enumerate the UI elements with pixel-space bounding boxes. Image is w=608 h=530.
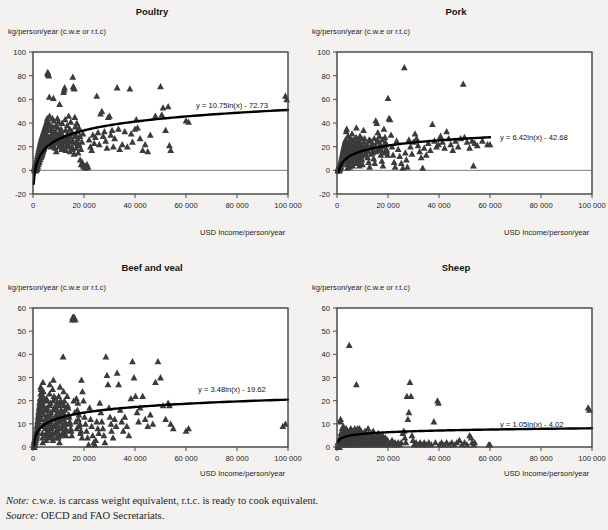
figure-root: Poultry kg/person/year (c.w.e or r.t.c) … [0, 0, 608, 530]
plot-area-beef-and-veal: 0102030405060020 00040 00060 00080 00010… [0, 292, 304, 474]
x-tick-label: 40 000 [427, 201, 450, 210]
x-tick-label: 80 000 [529, 201, 552, 210]
y-tick-label: 50 [322, 327, 330, 336]
chart-panel-beef-and-veal: Beef and veal kg/person/year (c.w.e or r… [0, 262, 304, 502]
x-tick-label: 60 000 [174, 454, 197, 463]
y-tick-label: -20 [15, 190, 26, 199]
x-tick-label: 0 [31, 201, 35, 210]
note-label: Note: [6, 495, 29, 506]
x-tick-label: 80 000 [225, 201, 248, 210]
y-tick-label: -20 [319, 190, 330, 199]
y-tick-label: 20 [322, 143, 330, 152]
x-tick-label: 0 [335, 201, 339, 210]
chart-panel-sheep: Sheep kg/person/year (c.w.e or r.t.c) 01… [304, 262, 608, 502]
y-tick-label: 30 [18, 374, 26, 383]
chart-title-beef-and-veal: Beef and veal [0, 262, 304, 273]
x-axis-caption-pork: USD Income/person/year [504, 228, 589, 237]
x-axis-caption-sheep: USD Income/person/year [504, 469, 589, 478]
x-tick-label: 40 000 [123, 454, 146, 463]
chart-panel-poultry: Poultry kg/person/year (c.w.e or r.t.c) … [0, 6, 304, 262]
scatter-svg-poultry: -20020406080100020 00040 00060 00080 000… [0, 36, 304, 232]
y-tick-label: 0 [326, 166, 330, 175]
x-tick-label: 20 000 [376, 201, 399, 210]
y-tick-label: 0 [326, 443, 330, 452]
y-tick-label: 60 [322, 95, 330, 104]
trend-equation-label: y = 6.42ln(x) - 42.68 [500, 133, 568, 142]
y-tick-label: 0 [22, 443, 26, 452]
y-axis-caption-sheep: kg/person/year (c.w.e or r.t.c) [312, 283, 410, 292]
y-tick-label: 100 [317, 48, 330, 57]
y-tick-label: 40 [322, 350, 330, 359]
figure-note: Note: c.w.e. is carcass weight equivalen… [6, 495, 318, 506]
x-tick-label: 20 000 [72, 454, 95, 463]
x-axis-caption-beef-and-veal: USD Income/person/year [200, 469, 285, 478]
y-tick-label: 50 [18, 327, 26, 336]
chart-title-pork: Pork [304, 6, 608, 17]
plot-area-poultry: -20020406080100020 00040 00060 00080 000… [0, 36, 304, 232]
x-tick-label: 60 000 [174, 201, 197, 210]
trend-equation-label: y = 3.48ln(x) - 19.62 [198, 385, 266, 394]
x-tick-label: 0 [31, 454, 35, 463]
y-tick-label: 40 [18, 119, 26, 128]
x-tick-label: 60 000 [478, 454, 501, 463]
trend-equation-label: y = 10.75ln(x) - 72.73 [196, 101, 268, 110]
x-tick-label: 20 000 [72, 201, 95, 210]
y-axis-caption-beef-and-veal: kg/person/year (c.w.e or r.t.c) [8, 283, 106, 292]
y-tick-label: 60 [18, 95, 26, 104]
x-tick-label: 60 000 [478, 201, 501, 210]
y-axis-caption-pork: kg/person/year (c.w.e or r.t.c) [312, 27, 410, 36]
x-axis-caption-poultry: USD Income/person/year [200, 228, 285, 237]
x-tick-label: 100 000 [274, 201, 301, 210]
x-tick-label: 20 000 [376, 454, 399, 463]
plot-area-pork: -20020406080100020 00040 00060 00080 000… [304, 36, 608, 232]
y-tick-label: 10 [322, 420, 330, 429]
x-tick-label: 80 000 [529, 454, 552, 463]
y-tick-label: 30 [322, 374, 330, 383]
plot-area-sheep: 0102030405060020 00040 00060 00080 00010… [304, 292, 608, 474]
chart-title-sheep: Sheep [304, 262, 608, 273]
y-tick-label: 10 [18, 420, 26, 429]
y-tick-label: 80 [322, 72, 330, 81]
chart-title-poultry: Poultry [0, 6, 304, 17]
x-tick-label: 100 000 [578, 454, 605, 463]
x-tick-label: 40 000 [123, 201, 146, 210]
source-text: OECD and FAO Secretariats. [41, 510, 164, 521]
y-tick-label: 20 [18, 143, 26, 152]
y-tick-label: 60 [322, 304, 330, 313]
scatter-svg-pork: -20020406080100020 00040 00060 00080 000… [304, 36, 608, 232]
source-label: Source: [6, 510, 38, 521]
y-tick-label: 60 [18, 304, 26, 313]
x-tick-label: 0 [335, 454, 339, 463]
x-tick-label: 40 000 [427, 454, 450, 463]
y-tick-label: 80 [18, 72, 26, 81]
scatter-svg-beef-and-veal: 0102030405060020 00040 00060 00080 00010… [0, 292, 304, 474]
x-tick-label: 100 000 [274, 454, 301, 463]
figure-source: Source: OECD and FAO Secretariats. [6, 510, 164, 521]
x-tick-label: 80 000 [225, 454, 248, 463]
y-axis-caption-poultry: kg/person/year (c.w.e or r.t.c) [8, 27, 106, 36]
scatter-svg-sheep: 0102030405060020 00040 00060 00080 00010… [304, 292, 608, 474]
x-tick-label: 100 000 [578, 201, 605, 210]
y-tick-label: 40 [322, 119, 330, 128]
trend-equation-label: y = 1.05ln(x) - 4.02 [500, 420, 564, 429]
y-tick-label: 40 [18, 350, 26, 359]
y-tick-label: 20 [18, 397, 26, 406]
y-tick-label: 20 [322, 397, 330, 406]
note-text: c.w.e. is carcass weight equivalent, r.t… [32, 495, 318, 506]
chart-panel-pork: Pork kg/person/year (c.w.e or r.t.c) -20… [304, 6, 608, 262]
y-tick-label: 0 [22, 166, 26, 175]
y-tick-label: 100 [13, 48, 26, 57]
